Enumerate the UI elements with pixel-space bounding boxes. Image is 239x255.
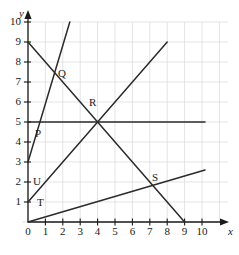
y-tick-7: 7: [0, 76, 21, 87]
y-tick-8: 8: [0, 56, 21, 67]
x-tick-2: 2: [54, 226, 72, 237]
x-axis-label: x: [228, 226, 233, 237]
y-tick-4: 4: [0, 136, 21, 147]
x-tick-0: 0: [19, 226, 37, 237]
x-tick-1: 1: [36, 226, 54, 237]
x-tick-4: 4: [89, 226, 107, 237]
coordinate-plane-figure: y x 10 9 8 7 6 5 4 3 2 1 0 1 2 3 4 5 6 7…: [0, 0, 239, 255]
curve-label-u: U: [33, 176, 41, 187]
y-tick-6: 6: [0, 96, 21, 107]
y-tick-5: 5: [0, 116, 21, 127]
curve-label-s: S: [152, 172, 158, 183]
x-tick-9: 9: [176, 226, 194, 237]
x-tick-3: 3: [71, 226, 89, 237]
y-tick-10: 10: [0, 16, 21, 27]
y-tick-3: 3: [0, 156, 21, 167]
curve-label-q: Q: [58, 68, 66, 79]
x-tick-5: 5: [106, 226, 124, 237]
curve-label-r: R: [89, 97, 96, 108]
line-q-steep: [28, 22, 70, 162]
curve-label-t: T: [37, 197, 44, 208]
y-tick-1: 1: [0, 196, 21, 207]
x-tick-7: 7: [141, 226, 159, 237]
curve-label-p: P: [35, 128, 41, 139]
x-tick-8: 8: [158, 226, 176, 237]
y-tick-2: 2: [0, 176, 21, 187]
x-tick-6: 6: [123, 226, 141, 237]
x-tick-10: 10: [193, 226, 211, 237]
y-tick-9: 9: [0, 36, 21, 47]
line-descending: [28, 42, 185, 222]
